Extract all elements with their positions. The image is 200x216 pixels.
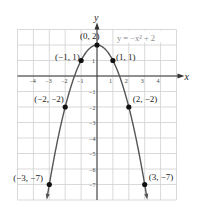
data-point-label: (−2, −2): [34, 94, 64, 104]
x-tick-label: 4: [157, 78, 160, 84]
y-tick-label: −1: [89, 89, 95, 95]
equation-label-group: y = −x² + 2: [115, 31, 167, 43]
x-tick-label: 1: [109, 78, 112, 84]
x-tick-label: 2: [125, 78, 128, 84]
data-point-label: (0, 2): [80, 31, 100, 41]
data-point: [142, 182, 147, 187]
data-point: [126, 104, 131, 109]
data-point-label: (−1, 1): [55, 52, 80, 62]
data-point-label: (1, 1): [116, 52, 135, 62]
y-tick-label: −4: [89, 136, 95, 142]
parabola-chart: −4−3−2−112341−1−2−3−4−5−6−7 (−3, −7)(−2,…: [0, 0, 200, 216]
y-axis-label: y: [93, 12, 99, 23]
x-tick-label: −4: [29, 78, 35, 84]
x-axis-label: x: [184, 71, 190, 82]
y-tick-label: −5: [89, 151, 95, 157]
equation-label: y = −x² + 2: [117, 33, 155, 43]
y-tick-label: 1: [92, 58, 95, 64]
y-tick-label: −7: [89, 182, 95, 188]
y-tick-label: −6: [89, 167, 95, 173]
y-axis-arrow-icon: [95, 23, 100, 30]
x-axis-arrow-icon: [178, 74, 185, 79]
x-tick-label: −3: [45, 78, 51, 84]
data-point-label: (2, −2): [133, 94, 158, 104]
x-tick-label: −1: [77, 78, 83, 84]
y-tick-label: −3: [89, 120, 95, 126]
y-tick-label: −2: [89, 105, 95, 111]
data-point: [94, 42, 99, 47]
data-point: [63, 104, 68, 109]
data-point-label: (−3, −7): [13, 173, 43, 183]
x-tick-label: −2: [61, 78, 67, 84]
x-tick-label: 3: [141, 78, 144, 84]
data-point: [110, 58, 115, 63]
data-point-label: (3, −7): [149, 172, 174, 182]
data-point: [47, 182, 52, 187]
